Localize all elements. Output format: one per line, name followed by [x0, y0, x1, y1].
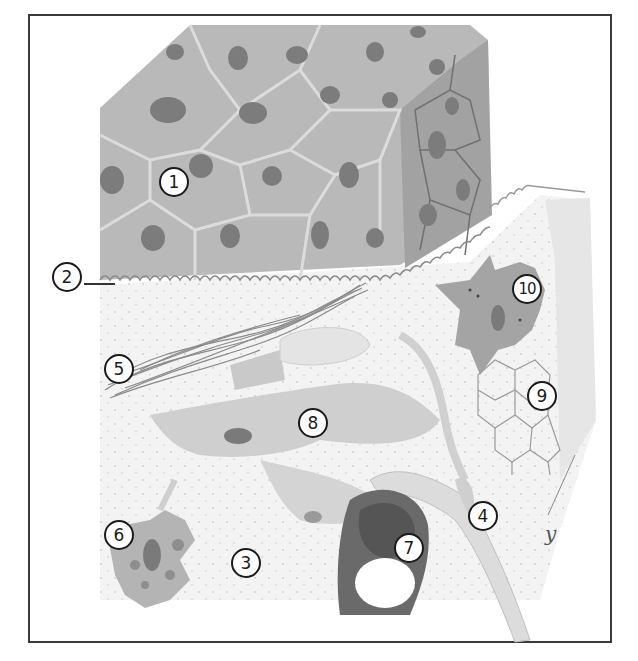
label-3-ground-substance: 3	[231, 548, 261, 578]
label-6-macrophage: 6	[104, 520, 134, 550]
histology-illustration	[0, 0, 638, 661]
label-8-fibroblast: 8	[298, 408, 328, 438]
label-10-stellate-cell: 10	[512, 274, 542, 304]
artist-signature: y	[545, 522, 556, 546]
label-9-reticular-fibers: 9	[527, 381, 557, 411]
label-7-blood-vessel: 7	[394, 533, 424, 563]
label-4-lymphatic-vessel: 4	[468, 501, 498, 531]
label-2-basement-membrane: 2	[52, 262, 82, 292]
label-1-epithelium: 1	[159, 167, 189, 197]
label-5-collagen-fibers: 5	[104, 354, 134, 384]
